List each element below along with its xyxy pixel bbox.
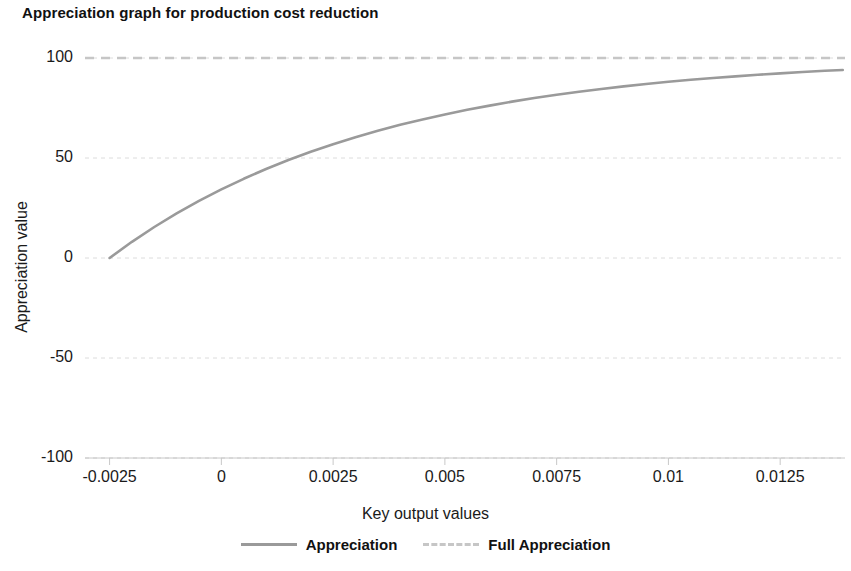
legend-swatch-solid-line-icon — [241, 543, 297, 546]
x-axis-title: Key output values — [0, 505, 851, 523]
legend-item[interactable]: Full Appreciation — [423, 536, 610, 553]
chart-legend: AppreciationFull Appreciation — [0, 536, 851, 553]
x-tick-label: 0.01 — [608, 468, 728, 486]
y-tick-label: -50 — [3, 348, 73, 366]
series-line-appreciation — [110, 70, 843, 258]
x-tick-label: 0.005 — [385, 468, 505, 486]
y-tick-label: -100 — [3, 448, 73, 466]
y-tick-label: 0 — [3, 248, 73, 266]
x-tick-label: 0.0075 — [497, 468, 617, 486]
legend-label: Full Appreciation — [488, 536, 610, 553]
chart-container: Appreciation graph for production cost r… — [0, 0, 851, 571]
x-axis-ticks — [110, 458, 781, 465]
legend-label: Appreciation — [306, 536, 398, 553]
x-tick-label: 0 — [161, 468, 281, 486]
x-tick-label: 0.0125 — [720, 468, 840, 486]
x-tick-label: 0.0025 — [273, 468, 393, 486]
x-axis — [85, 458, 845, 465]
gridlines — [85, 58, 845, 458]
y-axis-title: Appreciation value — [13, 167, 31, 367]
legend-swatch-dashed-line-icon — [423, 543, 479, 546]
x-tick-label: -0.0025 — [50, 468, 170, 486]
y-tick-label: 100 — [3, 48, 73, 66]
legend-item[interactable]: Appreciation — [241, 536, 398, 553]
y-tick-label: 50 — [3, 148, 73, 166]
